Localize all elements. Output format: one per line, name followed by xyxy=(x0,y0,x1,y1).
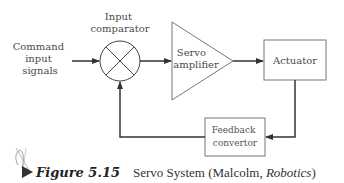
figure-number: Figure 5.15 xyxy=(35,165,120,180)
feedback-block xyxy=(205,118,265,156)
actuator-label: Actuator xyxy=(272,55,317,66)
servo-system-diagram: Command input signals Input comparator S… xyxy=(0,0,344,183)
pen-nib-icon xyxy=(16,148,33,178)
comparator-label: Input comparator xyxy=(90,11,149,34)
input-label: Command input signals xyxy=(13,41,68,76)
feedback-to-comparator-arrow xyxy=(120,82,205,137)
actuator-to-feedback-arrow xyxy=(266,80,295,137)
figure-caption: Figure 5.15 Servo System (Malcolm, Robot… xyxy=(35,163,316,180)
comparator-node xyxy=(100,41,140,81)
